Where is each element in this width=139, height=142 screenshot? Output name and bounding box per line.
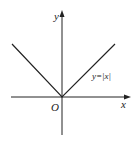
y-axis-arrow-icon <box>60 10 65 17</box>
graph-absolute-value: y x O y=|x| <box>0 0 139 142</box>
x-axis-label: x <box>120 98 126 110</box>
origin-label: O <box>51 101 59 113</box>
y-axis-label: y <box>53 10 59 22</box>
function-label: y=|x| <box>91 71 111 81</box>
